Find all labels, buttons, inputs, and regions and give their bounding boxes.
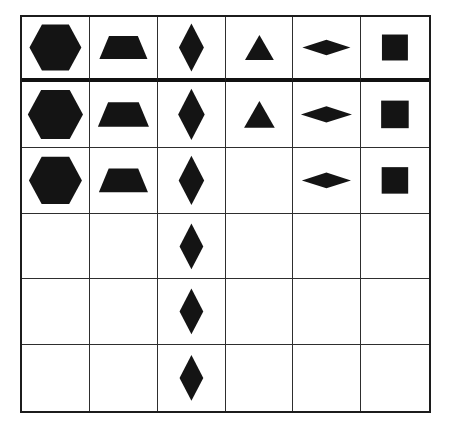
grid-cell <box>361 214 429 280</box>
grid-cell <box>158 345 226 411</box>
flat-diamond-icon <box>293 82 360 147</box>
shape-grid <box>20 15 431 413</box>
grid-cell <box>90 82 158 148</box>
diamond-icon <box>158 279 225 344</box>
grid-cell <box>22 82 90 148</box>
hexagon-icon <box>22 82 89 147</box>
grid-cell <box>293 279 361 345</box>
grid-cell <box>361 345 429 411</box>
trapezoid-icon <box>90 82 157 147</box>
grid-cell <box>158 148 226 214</box>
hexagon-icon <box>22 17 89 78</box>
grid-cell <box>90 17 158 82</box>
grid-cell <box>90 345 158 411</box>
grid-cell <box>361 82 429 148</box>
grid-cell <box>158 82 226 148</box>
grid-cell <box>361 17 429 82</box>
square-icon <box>361 148 429 213</box>
grid-cell <box>158 17 226 82</box>
grid-cell <box>293 82 361 148</box>
grid-cell <box>90 214 158 280</box>
grid-cell <box>90 279 158 345</box>
grid-cell <box>293 214 361 280</box>
grid-cell <box>158 214 226 280</box>
square-icon <box>361 17 429 78</box>
grid-cell <box>226 279 294 345</box>
square-icon <box>361 82 429 147</box>
grid-cell <box>293 17 361 82</box>
diamond-icon <box>158 345 225 411</box>
grid-cell <box>226 214 294 280</box>
grid-cell <box>22 279 90 345</box>
grid-cell <box>158 279 226 345</box>
grid-cell <box>293 345 361 411</box>
grid-cell <box>22 17 90 82</box>
diamond-icon <box>158 214 225 279</box>
grid-cell <box>90 148 158 214</box>
diamond-icon <box>158 17 225 78</box>
hexagon-icon <box>22 148 89 213</box>
grid-cell <box>22 148 90 214</box>
grid-cell <box>226 345 294 411</box>
diamond-icon <box>158 148 225 213</box>
triangle-icon <box>226 17 293 78</box>
grid-cell <box>361 148 429 214</box>
flat-diamond-icon <box>293 148 360 213</box>
grid-cell <box>293 148 361 214</box>
triangle-icon <box>226 82 293 147</box>
flat-diamond-icon <box>293 17 360 78</box>
grid-cell <box>226 82 294 148</box>
grid-cell <box>22 345 90 411</box>
grid-cell <box>22 214 90 280</box>
grid-cell <box>226 17 294 82</box>
diamond-icon <box>158 82 225 147</box>
trapezoid-icon <box>90 148 157 213</box>
grid-cell <box>361 279 429 345</box>
grid-cell <box>226 148 294 214</box>
trapezoid-icon <box>90 17 157 78</box>
